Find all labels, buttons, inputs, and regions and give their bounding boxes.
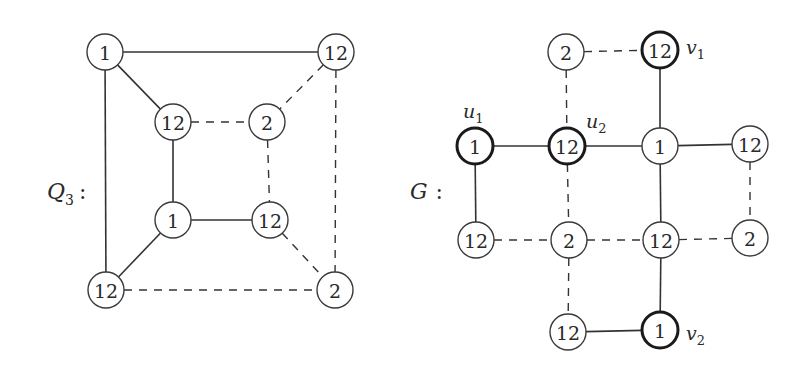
edge-dashed (282, 233, 323, 277)
vertex-color-label: 1 (469, 136, 481, 158)
vertex-name-label: u2 (586, 110, 607, 136)
graph-g: 212112112122122121 G: v1u1u2v2 (410, 32, 768, 350)
vertex-color-label: 1 (167, 210, 179, 232)
graph-label-subscript: 3 (65, 192, 74, 208)
graph-label-q3: Q3: (47, 179, 86, 208)
edge-dashed (335, 70, 336, 272)
vertex-name-label: u1 (463, 100, 484, 126)
edge-solid (660, 258, 661, 312)
graph-label-g: G: (410, 179, 443, 204)
vertex-color-label: 1 (654, 136, 666, 158)
vertex-node: 12 (88, 272, 124, 308)
vertex-node: 12 (318, 34, 354, 70)
vertex-name-label: v2 (686, 322, 705, 348)
vertex-node: 12 (643, 222, 679, 258)
vertex-color-label: 12 (649, 230, 673, 252)
edge-dashed (568, 258, 569, 314)
edge-dashed (584, 50, 642, 51)
vertex-color-label: 12 (324, 42, 348, 64)
vertex-color-label: 12 (555, 136, 579, 158)
vertex-node: 2 (548, 34, 584, 70)
graph-q3: 112122112122 Q3: (47, 34, 354, 308)
vertex-node: 12 (458, 222, 494, 258)
vertex-node: 2 (249, 104, 285, 140)
vertex-node: 12 (155, 104, 191, 140)
vertex-color-label: 2 (329, 280, 341, 302)
edge-solid (118, 233, 160, 277)
vertex-color-label: 2 (744, 228, 756, 250)
vertex-color-label: 1 (99, 42, 111, 64)
vertex-name-label: v1 (686, 36, 705, 62)
edge-dashed (566, 70, 567, 128)
vertex-labels: v1u1u2v2 (463, 36, 705, 348)
vertex-node: 12 (252, 202, 288, 238)
graph-label-colon: : (79, 179, 86, 204)
vertex-node: 1 (642, 312, 678, 348)
nodes: 212112112122122121 (457, 32, 768, 350)
edge-dashed (268, 140, 270, 202)
edge-solid (475, 164, 476, 222)
edge-solid (105, 70, 106, 272)
vertex-node: 1 (155, 202, 191, 238)
vertex-node: 12 (549, 128, 585, 164)
vertex-color-label: 12 (556, 322, 580, 344)
edges (475, 50, 750, 331)
edge-dashed (567, 164, 568, 222)
vertex-color-label: 2 (261, 112, 273, 134)
edge-solid (586, 330, 642, 331)
edge-solid (678, 144, 732, 145)
vertex-node: 12 (642, 32, 678, 68)
vertex-color-label: 12 (94, 280, 118, 302)
vertex-color-label: 2 (563, 230, 575, 252)
edge-solid (660, 164, 661, 222)
vertex-node: 12 (732, 126, 768, 162)
vertex-node: 2 (732, 220, 768, 256)
vertex-color-label: 2 (560, 42, 572, 64)
diagram-canvas: 112122112122 Q3: 212112112122122121 G: v… (0, 0, 794, 372)
vertex-node: 1 (642, 128, 678, 164)
vertex-color-label: 12 (464, 230, 488, 252)
graph-label-colon: : (436, 179, 443, 204)
vertex-color-label: 12 (738, 134, 762, 156)
graph-label-main: Q (47, 179, 65, 204)
edge-dashed (679, 238, 732, 239)
vertex-color-label: 1 (654, 320, 666, 342)
vertex-color-label: 12 (258, 210, 282, 232)
vertex-node: 1 (87, 34, 123, 70)
edge-solid (118, 65, 161, 109)
vertex-node: 2 (317, 272, 353, 308)
vertex-color-label: 12 (648, 40, 672, 62)
edges (105, 52, 336, 290)
vertex-node: 2 (551, 222, 587, 258)
edge-dashed (280, 65, 324, 109)
vertex-node: 12 (550, 314, 586, 350)
graph-label-main: G (410, 179, 428, 204)
vertex-color-label: 12 (161, 112, 185, 134)
vertex-node: 1 (457, 128, 493, 164)
